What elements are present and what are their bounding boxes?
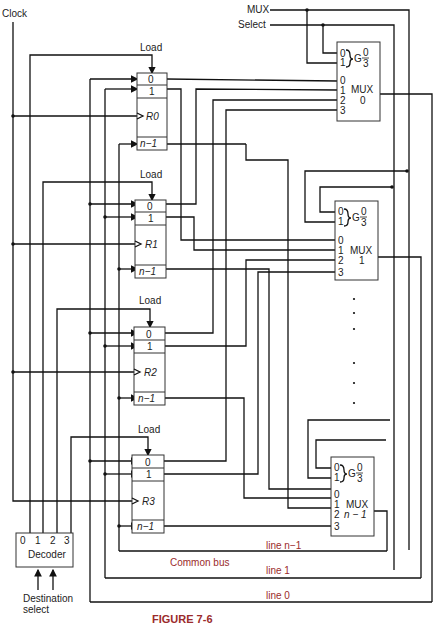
r1-bit-1: 1: [148, 213, 154, 224]
mux-select-label-2: Select: [238, 19, 266, 30]
muxn-g-top: 0: [357, 462, 363, 473]
r0-bit-0: 0: [148, 74, 154, 85]
bus-line-n-1-label: line n−1: [266, 540, 302, 551]
figure-caption: FIGURE 7-6: [152, 613, 213, 624]
r0-load-label: Load: [140, 42, 162, 53]
muxn-sel-1: 1: [334, 472, 340, 483]
r2-bit-0: 0: [146, 329, 152, 340]
r2-load-label: Load: [139, 295, 161, 306]
r0-bit-1: 1: [149, 86, 155, 97]
r3-load-label: Load: [138, 424, 160, 435]
decoder-label: Decoder: [28, 549, 66, 560]
r0-name: R0: [146, 111, 159, 122]
muxn-in-3: 3: [334, 521, 340, 532]
ellipsis-dots: [353, 298, 355, 404]
bus-line-1-label: line 1: [266, 565, 290, 576]
muxn-g-bottom: 3: [357, 473, 363, 484]
mux0-sel-1: 1: [340, 57, 346, 68]
r3-bit-n-1: n−1: [137, 521, 154, 532]
mux0-label: MUX: [351, 84, 374, 95]
decoder-out-2: 2: [50, 535, 56, 546]
register-to-mux-wires: [164, 79, 337, 526]
r3-name: R3: [142, 496, 155, 507]
mux1-index: 1: [359, 255, 365, 266]
common-bus: [90, 551, 432, 602]
common-bus-label: Common bus: [170, 557, 229, 568]
mux0-index: 0: [360, 95, 366, 106]
destination-select-label-2: select: [23, 604, 49, 615]
mux1-g-label: G: [352, 212, 360, 223]
r2-bit-n-1: n−1: [138, 393, 155, 404]
register-r1: Load 0 1 R1 n−1: [135, 169, 166, 278]
muxn-in-2: 2: [334, 509, 340, 520]
muxn-g-label: G: [348, 468, 356, 479]
register-bus-diagram: Clock MUX Select: [0, 0, 442, 624]
r3-bit-0: 0: [145, 457, 151, 468]
decoder: 0 1 2 3 Decoder: [16, 533, 73, 590]
r2-name: R2: [144, 367, 157, 378]
r0-bit-n-1: n−1: [140, 138, 157, 149]
decoder-out-0: 0: [20, 535, 26, 546]
r1-bit-0: 0: [147, 201, 153, 212]
mux0-g-top: 0: [363, 47, 369, 58]
destination-select-label-1: Destination: [23, 593, 73, 604]
mux1-in-2: 2: [338, 255, 344, 266]
r1-bit-n-1: n−1: [139, 266, 156, 277]
r1-name: R1: [145, 239, 158, 250]
mux-1: 0 1 G 0 3 0 1 2 3 MUX 1: [335, 201, 378, 280]
bus-to-register-wires: [88, 79, 137, 602]
mux1-g-bottom: 3: [361, 217, 367, 228]
r1-load-label: Load: [140, 169, 162, 180]
mux-select-label-1: MUX: [247, 4, 270, 15]
decoder-out-1: 1: [35, 535, 41, 546]
mux0-g-bottom: 3: [363, 58, 369, 69]
decoder-out-3: 3: [64, 535, 70, 546]
mux0-g-label: G: [354, 53, 362, 64]
bus-line-0-label: line 0: [266, 590, 290, 601]
muxn-index: n − 1: [344, 509, 367, 520]
mux-to-bus-wires: [374, 94, 432, 602]
mux1-sel-1: 1: [338, 216, 344, 227]
r3-bit-1: 1: [146, 469, 152, 480]
mux1-g-top: 0: [361, 206, 367, 217]
mux-n-1: 0 1 G 0 3 0 1 2 3 MUX n − 1: [331, 457, 374, 536]
mux1-in-3: 3: [338, 267, 344, 278]
clock-label: Clock: [2, 8, 28, 19]
r2-bit-1: 1: [147, 341, 153, 352]
mux-0: 0 1 G 0 3 0 1 2 3 MUX 0: [337, 42, 380, 121]
mux0-in-3: 3: [340, 105, 346, 116]
